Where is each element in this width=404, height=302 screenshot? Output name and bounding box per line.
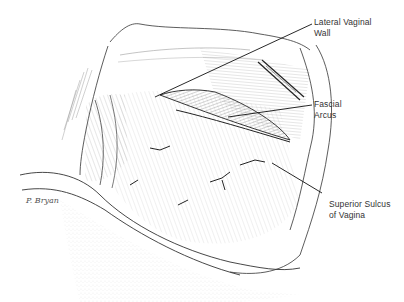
label-superior-sulcus: Superior Sulcus of Vagina — [329, 199, 391, 221]
label-line-2: Arcus — [314, 110, 342, 121]
label-line-1: Lateral Vaginal — [314, 17, 372, 28]
label-fascial-arcus: Fascial Arcus — [314, 99, 342, 121]
label-lateral-vaginal-wall: Lateral Vaginal Wall — [314, 17, 372, 39]
label-line-1: Fascial — [314, 99, 342, 110]
label-line-2: Wall — [314, 28, 372, 39]
label-line-2: of Vagina — [329, 210, 391, 221]
artist-signature: P. Bryan — [26, 196, 59, 205]
label-line-1: Superior Sulcus — [329, 199, 391, 210]
anatomical-illustration — [0, 0, 404, 302]
